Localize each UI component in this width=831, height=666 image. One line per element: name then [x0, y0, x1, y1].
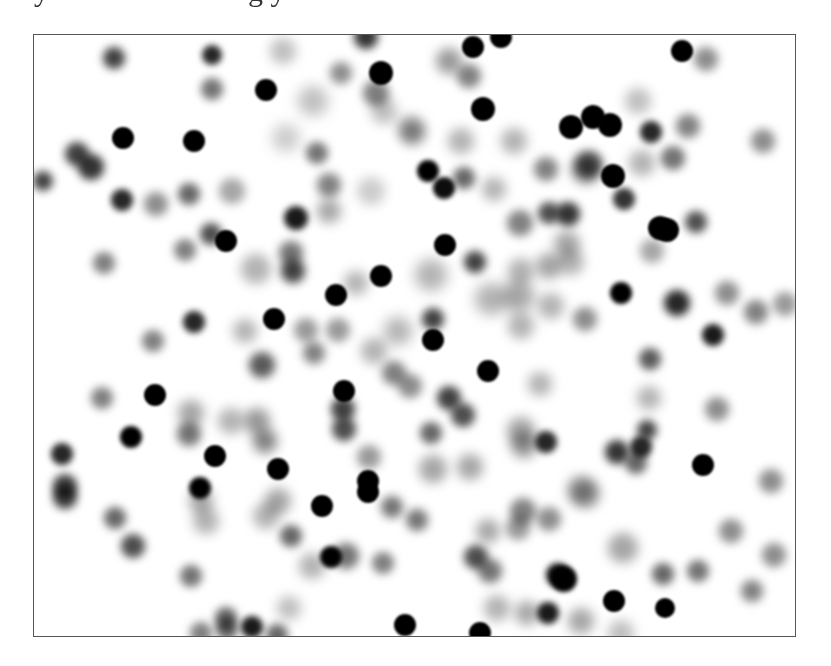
- particle-dot: [515, 601, 539, 625]
- particle-dot: [394, 614, 416, 636]
- particle-dot: [434, 234, 456, 256]
- particle-dot: [572, 480, 600, 508]
- particle-dot: [419, 455, 447, 483]
- particle-dot: [298, 86, 328, 116]
- particle-dot: [687, 560, 709, 582]
- particle-dot: [448, 128, 474, 154]
- particle-dot: [33, 171, 53, 191]
- particle-dot: [422, 308, 444, 330]
- particle-dot: [685, 211, 707, 233]
- particle-dot: [453, 167, 475, 189]
- particle-dot: [640, 239, 664, 263]
- particle-dot: [511, 432, 537, 458]
- particle-dot: [180, 565, 202, 587]
- particle-dot: [661, 146, 685, 170]
- particle-dot: [91, 387, 113, 409]
- particle-dot: [317, 199, 341, 223]
- particle-dot: [253, 429, 277, 453]
- particle-dot: [415, 259, 447, 291]
- particle-dot: [311, 495, 333, 517]
- particle-dot: [344, 271, 368, 295]
- particle-dot: [422, 329, 444, 351]
- particle-dot: [719, 519, 743, 543]
- particle-dot: [534, 157, 558, 181]
- particle-dot: [715, 281, 739, 305]
- particle-dot: [433, 177, 455, 199]
- particle-dot: [572, 155, 600, 183]
- particle-dot: [357, 445, 381, 469]
- particle-dot: [558, 249, 584, 275]
- particle-dot: [773, 292, 796, 316]
- particle-dot: [705, 397, 729, 421]
- particle-dot: [457, 454, 483, 480]
- particle-dot: [204, 445, 226, 467]
- particle-dot: [215, 230, 237, 252]
- particle-dot: [478, 559, 502, 583]
- particle-dot: [406, 509, 428, 531]
- particle-dot: [610, 282, 632, 304]
- caption-fragment: y: [34, 0, 49, 6]
- particle-dot: [613, 188, 635, 210]
- particle-dot: [190, 622, 212, 637]
- particle-dot: [637, 420, 657, 440]
- particle-dot: [357, 177, 385, 205]
- clipped-caption-fragment: yg y: [0, 0, 831, 10]
- particle-dot: [381, 496, 403, 518]
- particle-dot: [744, 300, 768, 324]
- particle-dot: [120, 426, 142, 448]
- particle-dot: [306, 142, 328, 164]
- particle-dot: [401, 121, 425, 145]
- particle-dot: [741, 580, 763, 602]
- particle-dot: [629, 150, 655, 176]
- particle-dot: [568, 608, 594, 634]
- particle-dot: [241, 254, 271, 284]
- particle-dot: [277, 596, 301, 620]
- particle-dot: [280, 525, 302, 547]
- caption-fragment: g y: [248, 0, 286, 6]
- particle-dot: [263, 308, 285, 330]
- particle-dot: [637, 386, 661, 410]
- particle-dot: [174, 239, 196, 261]
- particle-dot: [528, 372, 552, 396]
- particle-dot: [255, 79, 277, 101]
- particle-dot: [398, 374, 422, 398]
- particle-dot: [78, 154, 104, 180]
- particle-dot: [603, 590, 625, 612]
- particle-dot: [464, 251, 486, 273]
- particle-dot: [384, 317, 412, 345]
- particle-dot: [144, 384, 166, 406]
- particle-dot: [694, 47, 718, 71]
- particle-dot: [183, 311, 205, 333]
- particle-dot: [121, 534, 145, 558]
- particle-dot: [371, 98, 397, 124]
- particle-dot: [537, 507, 561, 531]
- particle-dot: [655, 598, 675, 618]
- particle-dot: [299, 553, 325, 579]
- particle-dot: [640, 121, 662, 143]
- particle-dot: [103, 47, 125, 69]
- particle-dot: [537, 602, 559, 624]
- particle-dot: [178, 183, 200, 205]
- particle-dot: [177, 422, 201, 446]
- particle-dot: [330, 62, 352, 84]
- particle-dot: [546, 563, 570, 587]
- particle-dot: [93, 252, 115, 274]
- particle-dot: [482, 177, 506, 201]
- particle-dot: [112, 127, 134, 149]
- particle-dot: [183, 130, 205, 152]
- particle-dot: [417, 160, 439, 182]
- particle-dot: [506, 516, 530, 540]
- particle-dot: [294, 318, 318, 342]
- particle-dot: [655, 218, 679, 242]
- particle-dot: [457, 64, 481, 88]
- particle-dot: [201, 78, 223, 100]
- particle-dot: [484, 595, 510, 621]
- particle-dot: [104, 507, 126, 529]
- particle-dot: [573, 307, 597, 331]
- particle-dot: [507, 210, 533, 236]
- particle-dot: [332, 417, 356, 441]
- particle-dot: [51, 443, 73, 465]
- particle-dot: [370, 265, 392, 287]
- particle-dot: [284, 206, 308, 230]
- particle-dot: [333, 543, 359, 569]
